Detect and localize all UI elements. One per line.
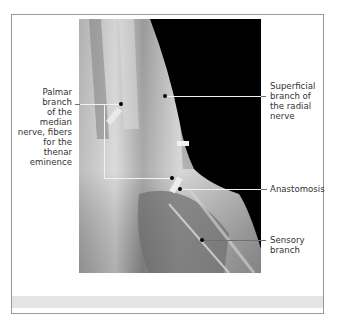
anatomy-photo (79, 19, 261, 273)
palmar-leader-lower (104, 178, 172, 179)
anastomosis-leader-line (180, 189, 261, 190)
dissection-image (79, 19, 261, 273)
superficial-marker-dot (163, 94, 167, 98)
palmar-marker-dot-2 (170, 176, 174, 180)
label-sensory-branch: Sensory branch (270, 235, 320, 255)
superficial-leader-tick (261, 96, 266, 97)
palmar-marker-dot (119, 102, 123, 106)
caption-band (12, 296, 323, 308)
anastomosis-leader-tick (261, 189, 267, 190)
palmar-leader-vertical (104, 104, 105, 178)
palmar-leader-line (80, 104, 121, 105)
superficial-leader-line (166, 96, 261, 97)
anastomosis-marker-dot (178, 187, 182, 191)
sensory-marker-dot (200, 238, 204, 242)
label-superficial-branch: Superficial branch of the radial nerve (270, 81, 324, 121)
label-palmar-branch: Palmar branch of the median nerve, fiber… (14, 87, 72, 167)
sensory-leader-line (203, 240, 266, 241)
label-anastomosis: Anastomosis (270, 184, 330, 194)
